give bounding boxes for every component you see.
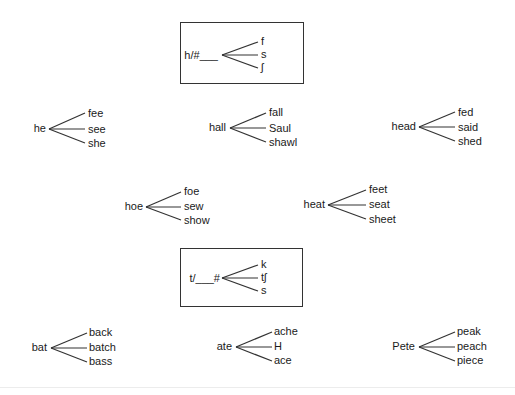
rule-branch-label: s xyxy=(261,284,267,297)
root-word-bat: bat xyxy=(32,341,47,354)
rule-branch-label: ʃ xyxy=(261,61,263,74)
root-word-hall: hall xyxy=(209,121,226,134)
branch-word: said xyxy=(458,121,478,134)
root-word-he: he xyxy=(34,122,46,135)
branch-word: back xyxy=(89,326,112,339)
branch-word: shawl xyxy=(269,136,297,149)
branch-word: H xyxy=(274,340,282,353)
branch-word: ache xyxy=(274,325,298,338)
root-word-ate: ate xyxy=(217,340,232,353)
branch-word: sew xyxy=(184,200,204,213)
rule-context-label: t/___# xyxy=(189,272,220,285)
root-word-head: head xyxy=(392,120,416,133)
branch-word: peak xyxy=(457,325,481,338)
branch-word: piece xyxy=(457,354,483,367)
rule-branch-label: f xyxy=(261,35,264,48)
branch-word: foe xyxy=(184,185,199,198)
branch-word: fed xyxy=(458,106,473,119)
branch-word: shed xyxy=(458,135,482,148)
branch-word: she xyxy=(88,137,106,150)
rule-context-label: h/#___ xyxy=(184,49,218,62)
branch-word: seat xyxy=(369,198,390,211)
root-word-heat: heat xyxy=(304,198,325,211)
branch-word: show xyxy=(184,214,210,227)
homophone-branching-diagram: h/#___ f s ʃ t/___# k tʃ s he fee see sh… xyxy=(0,0,515,395)
branch-word: ace xyxy=(274,354,292,367)
branch-word: sheet xyxy=(369,213,396,226)
bottom-separator xyxy=(0,387,515,388)
branch-word: peach xyxy=(457,340,487,353)
branch-word: Saul xyxy=(269,122,291,135)
root-word-hoe: hoe xyxy=(125,200,143,213)
rule-branch-label: k xyxy=(261,258,267,271)
branch-word: fee xyxy=(88,107,103,120)
branch-word: bass xyxy=(89,355,112,368)
rule-branch-label: s xyxy=(261,48,267,61)
branch-word: feet xyxy=(369,183,387,196)
rule-branch-label: tʃ xyxy=(261,271,267,284)
branch-word: see xyxy=(88,123,106,136)
branch-word: fall xyxy=(269,106,283,119)
branch-word: batch xyxy=(89,341,116,354)
root-word-pete: Pete xyxy=(392,340,415,353)
